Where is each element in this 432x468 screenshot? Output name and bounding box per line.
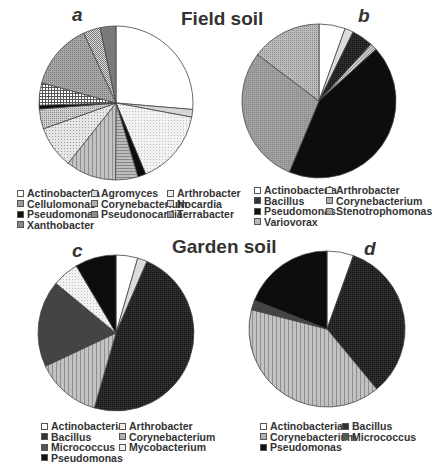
legend-row: Pseudomonas: [260, 442, 422, 453]
legend-row: MicrococcusMycobacterium: [41, 442, 199, 453]
legend-swatch: [254, 208, 261, 215]
legend-label: Actinobacteria: [51, 421, 124, 432]
legend-row: ActinobacteriaArthrobacter: [254, 185, 406, 196]
legend-swatch: [17, 190, 24, 197]
legend-c: ActinobacteriaArthrobacterBacillusCoryne…: [41, 421, 199, 463]
legend-swatch: [41, 433, 48, 440]
legend-item: Pseudonocardia: [91, 209, 167, 220]
legend-label: Arthrobacter: [177, 188, 241, 199]
legend-item: Variovorax: [254, 217, 326, 228]
legend-item: Pseudomonas: [260, 442, 342, 453]
legend-item: Stenotrophomonas: [326, 206, 406, 217]
legend-swatch: [167, 200, 174, 207]
legend-row: Xanthobacter: [17, 220, 227, 231]
legend-swatch: [254, 197, 261, 204]
legend-item: Agromyces: [91, 188, 167, 199]
legend-item: Arthrobacter: [119, 421, 199, 432]
legend-item: Micrococcus: [342, 432, 422, 443]
legend-label: Bacillus: [352, 421, 392, 432]
legend-item: Pseudomonas: [41, 453, 119, 464]
legend-label: Variovorax: [264, 217, 318, 228]
legend-swatch: [342, 433, 349, 440]
legend-label: Arthrobacter: [336, 185, 400, 196]
legend-label: Pseudomonas: [27, 209, 99, 220]
legend-row: ActinobacteriaBacillus: [260, 421, 422, 432]
legend-item: Actinobacteria: [17, 188, 91, 199]
legend-label: Xanthobacter: [27, 220, 94, 231]
legend-swatch: [119, 423, 126, 430]
legend-row: Variovorax: [254, 217, 406, 228]
legend-d: ActinobacteriaBacillusCorynebacteriumMic…: [260, 421, 422, 453]
legend-item: Pseudomonas: [254, 206, 326, 217]
legend-row: ActinobacteriaArthrobacter: [41, 421, 199, 432]
legend-label: Pseudomonas: [51, 453, 123, 464]
legend-item: Actinobacteria: [41, 421, 119, 432]
legend-swatch: [41, 454, 48, 461]
legend-item: Bacillus: [342, 421, 422, 432]
legend-a: ActinobacteriaAgromycesArthrobacterCellu…: [17, 188, 227, 230]
legend-label: Pseudomonas: [270, 442, 342, 453]
legend-label: Stenotrophomonas: [336, 206, 432, 217]
legend-swatch: [91, 211, 98, 218]
legend-swatch: [167, 211, 174, 218]
legend-swatch: [41, 444, 48, 451]
legend-swatch: [254, 187, 261, 194]
legend-item: Pseudomonas: [17, 209, 91, 220]
legend-swatch: [17, 200, 24, 207]
legend-item: Terrabacter: [167, 209, 227, 220]
legend-swatch: [260, 423, 267, 430]
legend-row: PseudomonasPseudonocardiaTerrabacter: [17, 209, 227, 220]
legend-b: ActinobacteriaArthrobacterBacillusCoryne…: [254, 185, 406, 227]
legend-swatch: [41, 423, 48, 430]
legend-label: Agromyces: [101, 188, 158, 199]
legend-item: Xanthobacter: [17, 220, 91, 231]
legend-label: Arthrobacter: [129, 421, 193, 432]
legend-row: ActinobacteriaAgromycesArthrobacter: [17, 188, 227, 199]
legend-label: Pseudomonas: [264, 206, 336, 217]
legend-row: Pseudomonas: [41, 453, 199, 464]
legend-label: Actinobacteria: [270, 421, 343, 432]
legend-swatch: [167, 190, 174, 197]
legend-item: Mycobacterium: [119, 442, 199, 453]
legend-swatch: [326, 197, 333, 204]
legend-label: Actinobacteria: [27, 188, 100, 199]
legend-swatch: [326, 187, 333, 194]
legend-label: Micrococcus: [51, 442, 115, 453]
legend-label: Micrococcus: [352, 432, 416, 443]
legend-item: Arthrobacter: [326, 185, 406, 196]
legend-item: Actinobacteria: [254, 185, 326, 196]
legend-item: Micrococcus: [41, 442, 119, 453]
legend-item: Actinobacteria: [260, 421, 342, 432]
legend-swatch: [119, 433, 126, 440]
legend-swatch: [91, 190, 98, 197]
legend-label: Mycobacterium: [129, 442, 206, 453]
legend-swatch: [260, 444, 267, 451]
legend-label: Terrabacter: [177, 209, 234, 220]
legend-swatch: [119, 444, 126, 451]
legend-swatch: [326, 208, 333, 215]
legend-swatch: [342, 423, 349, 430]
legend-swatch: [260, 433, 267, 440]
legend-row: PseudomonasStenotrophomonas: [254, 206, 406, 217]
legend-swatch: [254, 218, 261, 225]
legend-swatch: [17, 221, 24, 228]
legend-swatch: [91, 200, 98, 207]
legend-swatch: [17, 211, 24, 218]
legend-item: Arthrobacter: [167, 188, 227, 199]
